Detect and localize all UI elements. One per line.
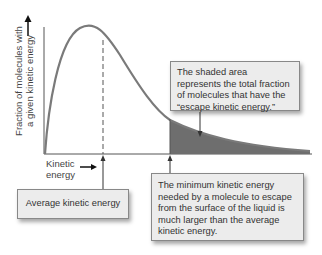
minimum-energy-text: The minimum kinetic energy needed by a m… bbox=[158, 180, 292, 236]
shaded-area-callout: The shaded area represents the total fra… bbox=[170, 61, 300, 111]
y-axis-label: Fraction of molecules with a given kinet… bbox=[13, 26, 35, 136]
x-axis-label-line1: Kinetic bbox=[46, 158, 75, 169]
y-axis-label-line2: a given kinetic energy bbox=[24, 26, 35, 136]
y-axis-arrowhead-icon bbox=[25, 15, 32, 22]
minimum-energy-callout: The minimum kinetic energy needed by a m… bbox=[151, 173, 304, 241]
x-axis-label: Kinetic energy bbox=[46, 158, 75, 180]
average-pointer-arrowhead-icon bbox=[101, 155, 106, 161]
x-axis-arrowhead-icon bbox=[91, 164, 97, 170]
x-axis-label-line2: energy bbox=[46, 169, 75, 180]
shaded-area-text: The shaded area represents the total fra… bbox=[177, 67, 290, 112]
average-energy-text: Average kinetic energy bbox=[26, 198, 120, 210]
y-axis-label-line1: Fraction of molecules with bbox=[13, 26, 24, 136]
minimum-pointer-arrowhead-icon bbox=[168, 155, 173, 161]
average-energy-callout: Average kinetic energy bbox=[17, 189, 129, 219]
